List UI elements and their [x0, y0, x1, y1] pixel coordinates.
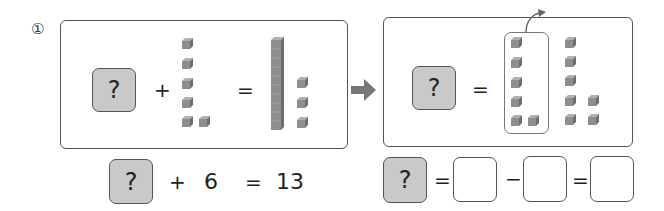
unit-cube-icon [565, 114, 576, 125]
unknown-label: ? [125, 168, 138, 196]
unit-cube-icon [511, 115, 522, 126]
unit-cube-icon [297, 117, 308, 128]
unit-cube-icon [297, 97, 308, 108]
unit-cube-icon [182, 58, 193, 69]
plus-sign: + [154, 80, 171, 100]
unknown-label: ? [108, 76, 121, 104]
unit-cube-icon [565, 95, 576, 106]
unit-cube-icon [182, 116, 193, 127]
unit-cube-icon [511, 37, 522, 48]
unit-cube-icon [511, 57, 522, 68]
equals-sign: = [572, 170, 589, 190]
unit-cube-icon [199, 116, 210, 127]
unknown-label: ? [428, 74, 441, 102]
unknown-label: ? [399, 166, 412, 194]
unit-cube-icon [182, 38, 193, 49]
minus-sign: − [505, 169, 522, 189]
unit-cube-icon [182, 78, 193, 89]
unknown-box-right-panel: ? [412, 66, 456, 110]
problem-number: ① [31, 20, 44, 38]
unit-cube-icon [588, 95, 599, 106]
answer-blank-1[interactable] [453, 157, 497, 202]
unknown-box-left-panel: ? [92, 68, 136, 112]
unknown-box-equation: ? [383, 157, 427, 203]
unit-cube-icon [297, 77, 308, 88]
equals-sign: = [245, 172, 262, 192]
answer-blank-2[interactable] [523, 156, 567, 202]
unit-cube-icon [511, 96, 522, 107]
equals-sign: = [472, 79, 489, 99]
ten-rod-icon [271, 37, 284, 130]
take-away-arrow-icon [520, 6, 550, 36]
unit-cube-icon [565, 37, 576, 48]
unit-cube-icon [511, 77, 522, 88]
unit-cube-icon [588, 114, 599, 125]
equals-sign: = [237, 80, 254, 100]
unit-cube-icon [565, 75, 576, 86]
sum-value: 13 [276, 171, 304, 193]
unknown-box-equation: ? [109, 159, 153, 204]
plus-sign: + [169, 172, 186, 192]
unit-cube-icon [528, 115, 539, 126]
addend-value: 6 [204, 171, 218, 193]
equals-sign: = [434, 170, 451, 190]
right-arrow-icon [351, 79, 377, 101]
unit-cube-icon [182, 97, 193, 108]
answer-blank-3[interactable] [590, 156, 634, 202]
unit-cube-icon [565, 56, 576, 67]
